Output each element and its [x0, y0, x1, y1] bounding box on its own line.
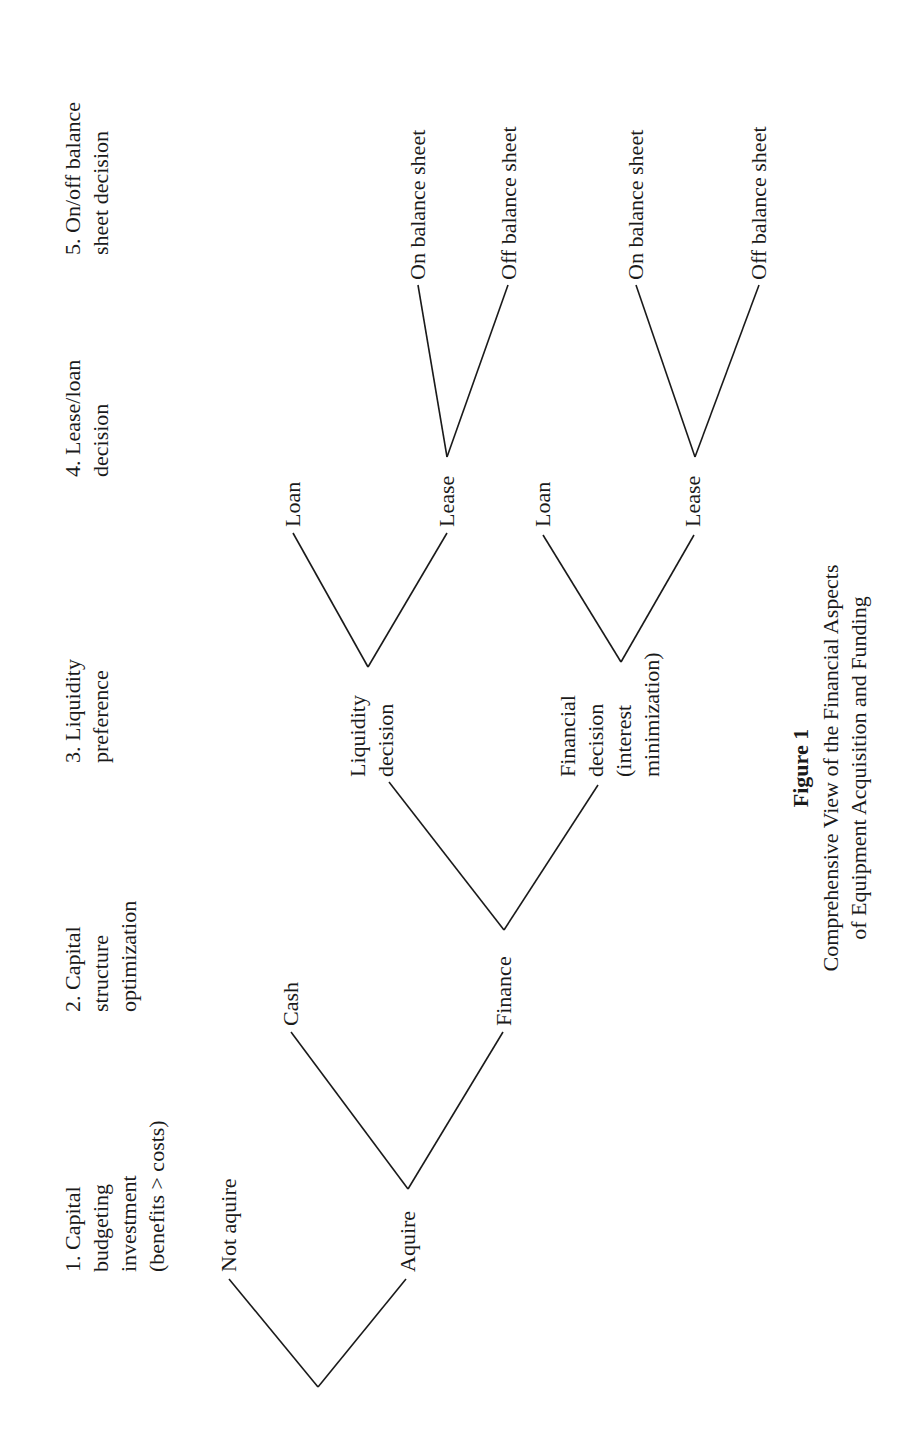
- node-financial-decision-line-3: (interest: [611, 705, 636, 777]
- edge-aquire-to-finance: [408, 1032, 503, 1189]
- node-financial-decision-line-1: Financial: [555, 695, 580, 777]
- node-off-balance-2-line-1: Off balance sheet: [746, 126, 771, 280]
- stage-headers: 1. Capitalbudgetinginvestment(benefits >…: [60, 102, 169, 1272]
- node-off-balance-2: Off balance sheet: [746, 126, 771, 280]
- stage-header-h4-line-1: 4. Lease/loan: [60, 360, 85, 477]
- edge-finance-to-financial-decision: [504, 785, 598, 930]
- edge-finance-to-liquidity-decision: [389, 782, 504, 930]
- stage-header-h1-line-4: (benefits > costs): [144, 1120, 169, 1272]
- edge-financial-decision-to-loan-2: [543, 535, 621, 662]
- caption-line-2: of Equipment Acquisition and Funding: [846, 596, 871, 939]
- node-liquidity-decision-line-2: decision: [373, 704, 398, 777]
- edge-root-to-not-aquire: [229, 1279, 318, 1387]
- node-cash-line-1: Cash: [278, 982, 303, 1026]
- stage-header-h2-line-1: 2. Capital: [60, 926, 85, 1012]
- node-not-aquire: Not aquire: [216, 1179, 241, 1272]
- node-loan-1: Loan: [280, 482, 305, 527]
- edge-lease-2-to-off-balance-2: [695, 285, 759, 457]
- node-financial-decision-line-2: decision: [583, 704, 608, 777]
- stage-header-h3-line-2: preference: [88, 670, 113, 763]
- stage-header-h3-line-1: 3. Liquidity: [60, 659, 85, 763]
- tree-edges: [229, 285, 759, 1387]
- stage-header-h1-line-2: budgeting: [88, 1184, 113, 1272]
- node-aquire: Aquire: [395, 1211, 420, 1272]
- edge-lease-1-to-on-balance-1: [418, 285, 447, 457]
- node-loan-2-line-1: Loan: [530, 482, 555, 527]
- node-financial-decision-line-4: minimization): [639, 652, 664, 777]
- figure-caption: Figure 1 Comprehensive View of the Finan…: [788, 564, 871, 971]
- edge-financial-decision-to-lease-2: [621, 535, 694, 662]
- node-off-balance-1: Off balance sheet: [496, 126, 521, 280]
- stage-header-h1-line-3: investment: [116, 1175, 141, 1272]
- stage-header-h2-line-3: optimization: [116, 901, 141, 1012]
- stage-header-h5-line-1: 5. On/off balance: [60, 102, 85, 255]
- node-off-balance-1-line-1: Off balance sheet: [496, 126, 521, 280]
- stage-header-h1-line-1: 1. Capital: [60, 1186, 85, 1272]
- node-lease-1-line-1: Lease: [434, 476, 459, 527]
- stage-header-h2-line-2: structure: [88, 935, 113, 1012]
- edge-liquidity-decision-to-lease-1: [368, 533, 447, 667]
- node-on-balance-1: On balance sheet: [405, 130, 430, 280]
- node-finance-line-1: Finance: [491, 956, 516, 1026]
- stage-header-h3: 3. Liquiditypreference: [60, 659, 113, 763]
- node-aquire-line-1: Aquire: [395, 1211, 420, 1272]
- node-lease-2-line-1: Lease: [680, 476, 705, 527]
- node-liquidity-decision: Liquiditydecision: [345, 695, 398, 777]
- stage-header-h5-line-2: sheet decision: [88, 131, 113, 255]
- node-on-balance-1-line-1: On balance sheet: [405, 130, 430, 280]
- edge-lease-1-to-off-balance-1: [447, 285, 508, 457]
- node-lease-2: Lease: [680, 476, 705, 527]
- edge-root-to-aquire: [318, 1279, 406, 1387]
- node-liquidity-decision-line-1: Liquidity: [345, 695, 370, 777]
- stage-header-h1: 1. Capitalbudgetinginvestment(benefits >…: [60, 1120, 169, 1272]
- caption-title: Figure 1: [788, 729, 813, 807]
- node-financial-decision: Financialdecision(interestminimization): [555, 652, 664, 777]
- node-loan-2: Loan: [530, 482, 555, 527]
- stage-header-h4-line-2: decision: [88, 404, 113, 477]
- caption-line-1: Comprehensive View of the Financial Aspe…: [818, 564, 843, 971]
- node-on-balance-2: On balance sheet: [623, 130, 648, 280]
- edge-lease-2-to-on-balance-2: [636, 285, 695, 457]
- node-lease-1: Lease: [434, 476, 459, 527]
- decision-tree-diagram: 1. Capitalbudgetinginvestment(benefits >…: [0, 0, 923, 1444]
- node-not-aquire-line-1: Not aquire: [216, 1179, 241, 1272]
- stage-header-h4: 4. Lease/loandecision: [60, 360, 113, 477]
- tree-nodes: Not aquireAquireCashFinanceLiquiditydeci…: [216, 126, 771, 1272]
- stage-header-h2: 2. Capitalstructureoptimization: [60, 901, 141, 1012]
- edge-liquidity-decision-to-loan-1: [293, 533, 368, 667]
- node-on-balance-2-line-1: On balance sheet: [623, 130, 648, 280]
- stage-header-h5: 5. On/off balancesheet decision: [60, 102, 113, 255]
- edge-aquire-to-cash: [291, 1032, 408, 1189]
- node-loan-1-line-1: Loan: [280, 482, 305, 527]
- node-finance: Finance: [491, 956, 516, 1026]
- node-cash: Cash: [278, 982, 303, 1026]
